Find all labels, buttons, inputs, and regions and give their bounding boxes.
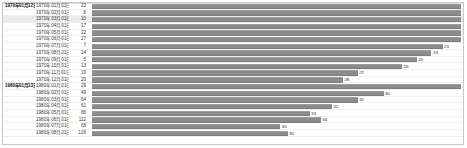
bar-value-label: 36 xyxy=(288,131,294,136)
row-value: 86 xyxy=(70,110,86,117)
bar-value-label: 29 xyxy=(461,84,464,89)
bar-track: 25 xyxy=(92,57,461,62)
row-value: 20 xyxy=(70,77,86,84)
table-row[interactable]: 1980年04月01日6132 xyxy=(3,103,463,110)
row-label: 1970年05月01日 xyxy=(36,30,69,37)
table-row[interactable]: 1980年02月01日4930 xyxy=(3,90,463,97)
bar[interactable] xyxy=(92,57,417,62)
bar[interactable] xyxy=(92,4,461,9)
row-value: 29 xyxy=(70,83,86,90)
table-row[interactable]: 1980年07月01日6835 xyxy=(3,123,463,130)
row-value: 17 xyxy=(70,23,86,30)
row-group-header xyxy=(5,110,35,117)
row-group-header: 1970年01月12日 xyxy=(5,3,35,10)
table-row[interactable]: 1970年12月01日2028 xyxy=(3,77,463,84)
bar[interactable] xyxy=(92,97,358,102)
bar-value-label: 17 xyxy=(461,4,464,9)
table-row[interactable]: 1970年01月12日1970年01月01日2317 xyxy=(3,3,463,10)
bar-track: 36 xyxy=(92,131,461,136)
table-row[interactable]: 1980年06月01日11234 xyxy=(3,117,463,124)
table-row[interactable]: 1970年02月01日818 xyxy=(3,10,463,17)
table-row[interactable]: 1970年06月01日2722 xyxy=(3,36,463,43)
bar[interactable] xyxy=(92,44,443,49)
table-row[interactable]: 1970年09月01日525 xyxy=(3,57,463,64)
bar-track: 17 xyxy=(92,4,461,9)
bar[interactable] xyxy=(92,111,310,116)
row-group-header: 1980年01月13日 xyxy=(5,83,35,90)
row-label: 1970年08月01日 xyxy=(36,50,69,57)
table-row[interactable]: 1970年04月01日1720 xyxy=(3,23,463,30)
bar-value-label: 19 xyxy=(461,17,464,22)
row-value: 68 xyxy=(70,123,86,130)
row-label: 1980年05月01日 xyxy=(36,110,69,117)
bar[interactable] xyxy=(92,64,402,69)
row-group-header xyxy=(5,90,35,97)
row-value: 22 xyxy=(70,30,86,37)
bar-table-grid: 1970年01月12日1970年01月01日23171970年02月01日818… xyxy=(3,3,463,144)
bar[interactable] xyxy=(92,104,332,109)
bar-value-label: 20 xyxy=(461,24,464,29)
bar-value-label: 22 xyxy=(461,37,464,42)
bar-track: 18 xyxy=(92,10,461,15)
table-row[interactable]: 1970年05月01日2221 xyxy=(3,30,463,37)
row-label: 1980年04月01日 xyxy=(36,103,69,110)
row-value: 23 xyxy=(70,3,86,10)
row-label: 1980年06月01日 xyxy=(36,117,69,124)
table-row[interactable]: 1980年08月01日12636 xyxy=(3,130,463,137)
row-group-header xyxy=(5,23,35,30)
table-row[interactable]: 1970年07月01日723 xyxy=(3,43,463,50)
row-value: 19 xyxy=(70,70,86,77)
row-label: 1980年02月01日 xyxy=(36,90,69,97)
table-row[interactable]: 1980年01月13日1980年01月01日2929 xyxy=(3,83,463,90)
bar[interactable] xyxy=(92,117,321,122)
bar-value-label: 31 xyxy=(358,97,364,102)
row-label: 1970年06月01日 xyxy=(36,36,69,43)
row-label: 1970年09月01日 xyxy=(36,57,69,64)
row-label: 1980年07月01日 xyxy=(36,123,69,130)
bar-value-label: 23 xyxy=(443,44,449,49)
bar[interactable] xyxy=(92,30,461,35)
table-row[interactable]: 1980年03月01日6431 xyxy=(3,97,463,104)
row-group-header xyxy=(5,30,35,37)
bar[interactable] xyxy=(92,17,461,22)
bar-value-label: 30 xyxy=(384,91,390,96)
row-value: 61 xyxy=(70,103,86,110)
row-group-header xyxy=(5,70,35,77)
table-row[interactable]: 1970年10月01日1326 xyxy=(3,63,463,70)
row-group-header xyxy=(5,43,35,50)
row-label: 1970年10月01日 xyxy=(36,63,69,70)
row-value: 126 xyxy=(70,130,86,137)
bar-track: 19 xyxy=(92,17,461,22)
bar-track: 24 xyxy=(92,50,461,55)
row-value: 49 xyxy=(70,90,86,97)
bar[interactable] xyxy=(92,10,461,15)
bar[interactable] xyxy=(92,131,288,136)
row-group-header xyxy=(5,50,35,57)
row-label: 1970年07月01日 xyxy=(36,43,69,50)
row-group-header xyxy=(5,36,35,43)
bar[interactable] xyxy=(92,124,280,129)
table-row[interactable]: 1970年08月01日1424 xyxy=(3,50,463,57)
bar[interactable] xyxy=(92,77,343,82)
row-label: 1980年01月01日 xyxy=(36,83,69,90)
bar-value-label: 34 xyxy=(321,117,327,122)
row-value: 13 xyxy=(70,63,86,70)
bar[interactable] xyxy=(92,24,461,29)
bar-track: 27 xyxy=(92,70,461,75)
bar[interactable] xyxy=(92,91,384,96)
bar[interactable] xyxy=(92,84,461,89)
row-group-header xyxy=(5,123,35,130)
bar-value-label: 26 xyxy=(402,64,408,69)
bar-value-label: 33 xyxy=(310,111,316,116)
bar-track: 21 xyxy=(92,30,461,35)
table-row[interactable]: 1980年05月01日8633 xyxy=(3,110,463,117)
bar-track: 30 xyxy=(92,91,461,96)
bar[interactable] xyxy=(92,50,431,55)
bar-track: 33 xyxy=(92,111,461,116)
table-row[interactable]: 1970年11月01日1927 xyxy=(3,70,463,77)
bar[interactable] xyxy=(92,70,358,75)
table-row[interactable]: 1970年03月01日1019 xyxy=(3,16,463,23)
bar-track: 35 xyxy=(92,124,461,129)
bar-value-label: 25 xyxy=(417,57,423,62)
bar[interactable] xyxy=(92,37,461,42)
